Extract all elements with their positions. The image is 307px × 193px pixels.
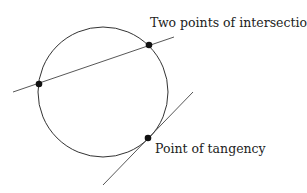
- tangency-label: Point of tangency: [155, 141, 267, 156]
- tangency-point: [145, 135, 152, 142]
- intersection-label: Two points of intersection: [150, 15, 307, 30]
- intersection-point-left: [36, 81, 43, 88]
- circle-diagram: Two points of intersection Point of tang…: [0, 0, 307, 193]
- intersection-point-right: [146, 42, 153, 49]
